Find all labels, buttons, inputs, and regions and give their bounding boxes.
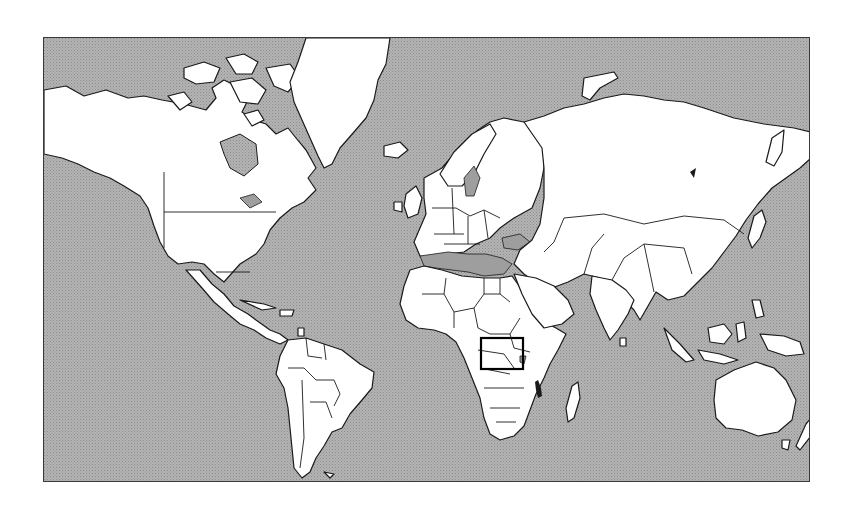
tasmania [782, 440, 790, 450]
world-map [43, 37, 810, 482]
world-map-svg [44, 38, 810, 482]
sri-lanka [620, 338, 626, 346]
